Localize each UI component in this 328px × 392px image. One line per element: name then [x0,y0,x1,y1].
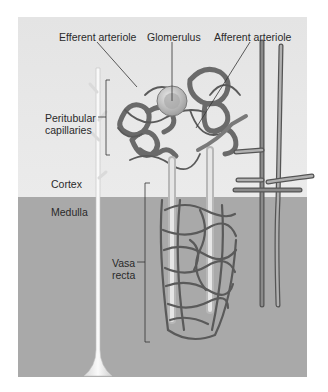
label-peritubular-line1: Peritubular [45,112,96,124]
label-vasa-line2: recta [112,269,135,281]
label-efferent-arteriole: Efferent arteriole [59,31,136,43]
afferent-arteriole-leader [196,42,250,128]
label-cortex: Cortex [51,178,82,190]
interlobular-vessels [235,42,312,305]
label-afferent-arteriole: Afferent arteriole [214,31,291,43]
peritubular-capillary-network [118,69,240,169]
peritubular-bracket [106,80,110,155]
label-vasa-line1: Vasa [112,257,135,269]
label-glomerulus: Glomerulus [147,31,201,43]
vasa-recta-bracket [145,183,150,342]
label-medulla: Medulla [51,206,88,218]
nephron-vascular-illustration [0,0,328,392]
efferent-arteriole-leader [97,42,137,87]
label-peritubular-line2: capillaries [45,124,92,136]
